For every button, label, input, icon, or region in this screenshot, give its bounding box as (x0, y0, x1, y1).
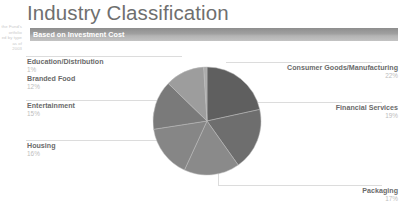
subtitle-bar: Based on Investment Cost (30, 28, 398, 41)
subtitle-bar-label: Based on Investment Cost (33, 30, 124, 39)
pie-label-education-distribution: Education/Distribution 1% (27, 58, 104, 75)
pie-label-consumer-goods-value: 22% (287, 72, 398, 80)
page-title: Industry Classification (27, 1, 229, 25)
pie-label-education-distribution-name: Education/Distribution (27, 58, 104, 66)
pie-label-packaging: Packaging 17% (362, 187, 398, 204)
pie-label-entertainment-name: Entertainment (27, 102, 75, 110)
pie-label-financial-services-value: 19% (336, 112, 398, 120)
pie-label-financial-services: Financial Services 19% (336, 104, 398, 121)
leader-line-education-distribution (26, 56, 182, 57)
pie-label-entertainment: Entertainment 15% (27, 102, 75, 119)
pie-label-entertainment-value: 15% (27, 110, 75, 118)
pie-label-consumer-goods: Consumer Goods/Manufacturing 22% (287, 64, 398, 81)
pie-chart: Education/Distribution 1% Branded Food 1… (0, 44, 406, 218)
pie-label-packaging-name: Packaging (362, 187, 398, 195)
pie-svg (152, 66, 262, 176)
leader-line-packaging (218, 185, 382, 186)
pie-label-branded-food: Branded Food 12% (27, 75, 75, 92)
pie-label-housing-name: Housing (27, 142, 56, 150)
pie-label-consumer-goods-name: Consumer Goods/Manufacturing (287, 64, 398, 72)
pie-label-housing: Housing 16% (27, 142, 56, 159)
pie-label-education-distribution-value: 1% (27, 66, 104, 74)
pie-label-housing-value: 16% (27, 150, 56, 158)
margin-note-line-3: ed by type (0, 35, 22, 41)
leader-line-entertainment (26, 100, 168, 101)
pie-label-financial-services-name: Financial Services (336, 104, 398, 112)
pie-label-branded-food-value: 12% (27, 83, 75, 91)
pie-label-branded-food-name: Branded Food (27, 75, 75, 83)
pie-graphic (152, 66, 262, 176)
leader-line-housing (26, 140, 172, 141)
pie-label-packaging-value: 17% (362, 195, 398, 203)
margin-note-line-1: the Fund's (0, 24, 22, 30)
leader-line-consumer-goods (226, 62, 382, 63)
